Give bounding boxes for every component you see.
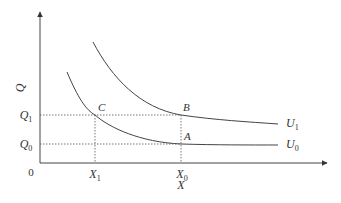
label-u1: U1 [286,116,299,132]
y-axis-label: Q [13,83,27,92]
label-u0: U0 [286,137,299,153]
tick-x0: X0 [175,167,187,183]
point-c: C [98,101,106,113]
point-a: A [183,130,191,142]
tick-q1: Q1 [20,108,33,124]
indifference-curve-diagram: Q X 0 Q1 Q0 X1 X0 C B A U1 U0 [0,0,341,203]
origin-label: 0 [28,166,34,178]
tick-q0: Q0 [20,137,33,153]
point-b: B [183,101,190,113]
tick-x1: X1 [88,167,100,183]
